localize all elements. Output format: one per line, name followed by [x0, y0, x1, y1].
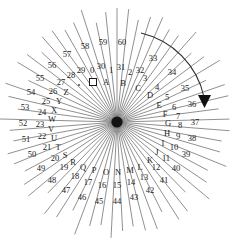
ray-label-inner: 22 — [38, 132, 47, 141]
ray-label-letter: M — [126, 166, 134, 175]
ray-label-letter: P — [92, 166, 97, 175]
radial-ray-figure: 0123456789101112131415161718192021222324… — [0, 0, 234, 244]
center-hub-dot — [111, 116, 122, 127]
ray-label-letter: T — [55, 143, 60, 152]
arc-path — [141, 33, 204, 97]
ray-label-letter: L — [137, 163, 142, 172]
ray-label-outer: 38 — [188, 134, 197, 143]
ray-label-letter: J — [155, 148, 158, 157]
ray-label-letter: N — [115, 168, 121, 177]
hub — [111, 116, 122, 127]
ray-label-outer: 39 — [182, 150, 191, 159]
ray-label-letter: D — [147, 91, 153, 100]
ray-label-inner: 14 — [127, 178, 136, 187]
ray-label-inner: 23 — [36, 120, 45, 129]
ray-label-outer: 52 — [19, 119, 28, 128]
ray-label-letter: C — [135, 84, 141, 93]
ray-label-outer: 60 — [118, 38, 127, 47]
ray-label-letter: W — [48, 115, 56, 124]
ray-label-letter: Q — [80, 163, 86, 172]
ray-label-inner: 8 — [178, 121, 182, 130]
ray-label-inner: 21 — [43, 143, 52, 152]
ray-label-outer: 36 — [188, 100, 197, 109]
ray-line — [117, 122, 230, 131]
ray-label-letter: R — [70, 158, 76, 167]
ray-label-outer: 37 — [191, 118, 200, 127]
ray-label-inner: 30 — [97, 62, 106, 71]
ray-label-outer: 54 — [27, 88, 36, 97]
ray-label-letter: O — [103, 168, 109, 177]
ray-label-inner: 17 — [84, 178, 93, 187]
dot-marker — [78, 84, 80, 86]
ray-label-outer: 42 — [146, 186, 155, 195]
ray-label-letter: Y — [56, 97, 62, 106]
ray-label-inner: 3 — [143, 74, 147, 83]
ray-label-outer: 55 — [36, 74, 45, 83]
ray-label-outer: 59 — [99, 38, 108, 47]
ray-label-outer: 57 — [63, 50, 72, 59]
ray-label-inner: 32 — [136, 66, 145, 75]
ray-label-letter: V — [48, 125, 54, 134]
ray-label-letter: A — [103, 78, 109, 87]
ray-label-letter: E — [156, 101, 161, 110]
ray-label-outer: 49 — [37, 164, 46, 173]
ray-label-outer: 35 — [181, 84, 190, 93]
ray-label-letter: Z — [63, 88, 68, 97]
ray-label-outer: 45 — [95, 197, 104, 206]
ray-label-outer: 48 — [48, 176, 57, 185]
arrow-head-icon — [198, 95, 211, 108]
ray-label-inner: 20 — [51, 154, 60, 163]
ray-label-letter: I — [162, 139, 165, 148]
ray-label-inner: 5 — [165, 93, 169, 102]
ray-label-letter: K — [147, 156, 153, 165]
ray-label-inner: 25 — [42, 97, 51, 106]
ray-label-outer: 53 — [21, 103, 30, 112]
ray-label-outer: 47 — [62, 186, 71, 195]
ray-label-inner: 19 — [60, 163, 69, 172]
ray-label-inner: 9 — [176, 132, 180, 141]
ray-label-inner: 16 — [98, 181, 107, 190]
ray-label-inner: 26 — [49, 87, 58, 96]
ray-label-outer: 43 — [130, 193, 139, 202]
ray-label-outer: 50 — [28, 150, 37, 159]
ray-label-outer: 41 — [160, 176, 169, 185]
ray-label-letter: H — [164, 129, 170, 138]
ray-label-letter: S — [63, 151, 68, 160]
ray-label-inner: 4 — [155, 83, 159, 92]
ray-label-inner: 2 — [128, 68, 132, 77]
ray-label-letter: X — [51, 106, 57, 115]
ray-label-inner: 27 — [57, 78, 66, 87]
ray-label-inner: 13 — [140, 173, 149, 182]
ray-label-outer: 46 — [78, 193, 87, 202]
ray-label-outer: 51 — [22, 135, 31, 144]
ray-label-inner: 15 — [113, 181, 122, 190]
ray-label-inner: 18 — [71, 172, 80, 181]
ray-label-inner: 0 — [90, 66, 94, 75]
ray-label-letter: G — [165, 119, 171, 128]
ray-label-letter: B — [120, 79, 126, 88]
ray-label-outer: 40 — [172, 164, 181, 173]
square-marker — [90, 79, 97, 86]
ray-label-outer: 58 — [81, 42, 90, 51]
ray-label-letter: U — [51, 134, 57, 143]
ray-label-outer: 44 — [113, 197, 122, 206]
ray-label-outer: 56 — [48, 61, 57, 70]
ray-label-inner: 31 — [117, 63, 126, 72]
ray-label-outer: 33 — [149, 54, 158, 63]
ray-label-inner: 29 — [77, 66, 86, 75]
ray-label-inner: 11 — [162, 154, 170, 163]
ray-label-inner: 1 — [109, 66, 113, 75]
ray-label-inner: 10 — [170, 143, 179, 152]
ray-label-inner: 24 — [38, 108, 47, 117]
ray-label-inner: 28 — [67, 71, 76, 80]
ray-label-outer: 34 — [168, 68, 177, 77]
